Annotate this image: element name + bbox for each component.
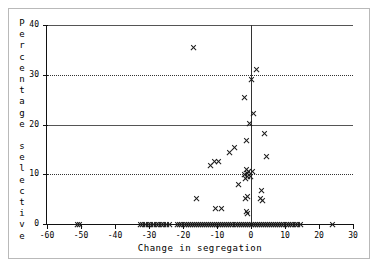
plot-area: 010203040 -60-50-40-30-20-100102030	[47, 25, 353, 224]
gridline	[47, 174, 353, 175]
y-tick-label: 40	[17, 20, 39, 29]
data-point	[241, 94, 248, 101]
data-point	[259, 197, 266, 204]
x-tick	[251, 224, 252, 229]
y-tick	[43, 25, 48, 26]
x-tick-label: -40	[102, 231, 128, 240]
data-point	[226, 149, 233, 156]
data-point	[253, 66, 260, 73]
y-axis-title-letter: t	[14, 197, 30, 208]
data-point	[207, 162, 214, 169]
x-tick	[285, 224, 286, 229]
gridline	[47, 25, 353, 26]
x-tick-label: 30	[340, 231, 366, 240]
data-point	[258, 187, 265, 194]
gridline	[47, 125, 353, 126]
y-axis-title-letter: r	[14, 40, 30, 51]
data-point	[235, 181, 242, 188]
y-axis-title-letter: e	[14, 231, 30, 242]
y-axis-title-letter: g	[14, 108, 30, 119]
x-tick-label: 10	[272, 231, 298, 240]
y-tick	[43, 174, 48, 175]
data-point	[246, 120, 253, 127]
data-point	[193, 195, 200, 202]
chart-figure: Percentage.selective 010203040 -60-50-40…	[0, 0, 380, 269]
y-tick	[43, 125, 48, 126]
x-tick-label: -60	[34, 231, 60, 240]
y-axis-title-letter: i	[14, 208, 30, 219]
data-point	[212, 205, 219, 212]
x-tick	[115, 224, 116, 229]
x-tick-label: -20	[170, 231, 196, 240]
y-axis-title-letter: a	[14, 96, 30, 107]
x-tick-label: -30	[136, 231, 162, 240]
y-axis-title: Percentage.selective	[14, 18, 30, 242]
x-tick-label: -10	[204, 231, 230, 240]
data-point	[257, 195, 264, 202]
data-point	[243, 166, 250, 173]
x-tick	[217, 224, 218, 229]
y-tick	[43, 75, 48, 76]
x-tick	[47, 224, 48, 229]
data-point	[243, 137, 250, 144]
x-tick	[183, 224, 184, 229]
y-tick-label: 0	[17, 219, 39, 228]
data-point	[211, 158, 218, 165]
data-point	[263, 153, 270, 160]
data-point	[190, 44, 197, 51]
y-tick-label: 30	[17, 70, 39, 79]
y-axis-title-letter: t	[14, 85, 30, 96]
x-tick	[353, 224, 354, 229]
data-point	[242, 175, 249, 182]
y-tick-label: 10	[17, 169, 39, 178]
x-axis-line	[47, 224, 353, 225]
x-tick	[149, 224, 150, 229]
y-axis-title-letter: s	[14, 141, 30, 152]
data-point	[242, 195, 249, 202]
zero-reference-line	[251, 25, 252, 224]
y-axis-title-letter: c	[14, 52, 30, 63]
data-point	[243, 208, 250, 215]
y-tick-label: 20	[17, 120, 39, 129]
x-tick-label: -50	[68, 231, 94, 240]
data-point	[261, 130, 268, 137]
x-tick	[81, 224, 82, 229]
x-axis-title: Change in segregation	[47, 243, 353, 253]
gridline	[47, 75, 353, 76]
y-axis-title-letter: e	[14, 29, 30, 40]
data-point	[215, 158, 222, 165]
x-tick-label: 20	[306, 231, 332, 240]
data-point	[231, 144, 238, 151]
y-axis-title-letter: e	[14, 152, 30, 163]
x-tick	[319, 224, 320, 229]
data-point	[218, 205, 225, 212]
x-tick-label: 0	[238, 231, 264, 240]
y-axis-title-letter: c	[14, 186, 30, 197]
